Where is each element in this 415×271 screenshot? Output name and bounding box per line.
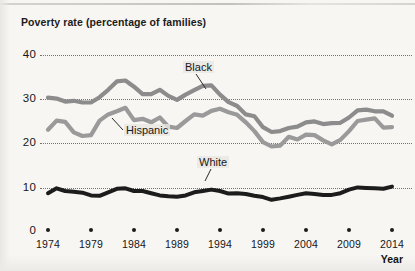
series-line-hispanic (48, 108, 392, 147)
series-label-white: White (197, 156, 229, 168)
plot-area (0, 0, 415, 271)
series-label-hispanic: Hispanic (124, 124, 170, 136)
chart-page: Poverty rate (percentage of families) 40… (0, 0, 415, 271)
series-label-black: Black (183, 61, 214, 73)
leader-line-white (205, 169, 211, 181)
leader-line-hispanic (112, 118, 123, 130)
series-line-white (48, 187, 392, 200)
